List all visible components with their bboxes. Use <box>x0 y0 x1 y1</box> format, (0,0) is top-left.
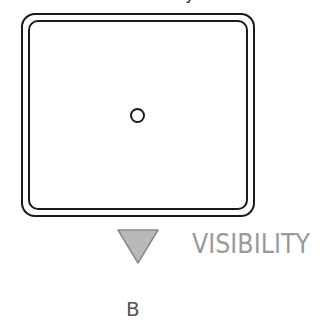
cutoff-heading-text: y <box>150 0 230 4</box>
down-triangle-icon <box>116 228 160 266</box>
panel-label: B <box>126 298 140 320</box>
circle-outline-icon <box>130 108 145 123</box>
visibility-label: VISIBILITY <box>192 229 310 259</box>
